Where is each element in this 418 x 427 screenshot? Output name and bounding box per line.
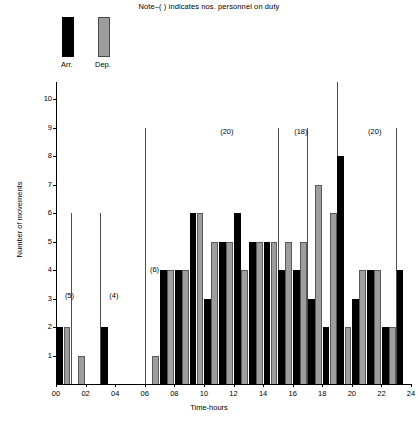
shift-personnel-label: (5) — [65, 291, 74, 300]
legend-swatch-departures — [98, 17, 110, 57]
bar-arrivals — [367, 270, 374, 384]
x-tick-mark — [381, 384, 382, 387]
y-tick-label: 6 — [26, 208, 52, 217]
shift-divider-line — [145, 128, 146, 384]
bar-arrivals — [397, 270, 404, 384]
bar-arrivals — [204, 299, 211, 384]
bar-departures — [226, 242, 233, 384]
bar-departures — [256, 242, 263, 384]
bar-departures — [285, 242, 292, 384]
y-tick-label: 2 — [26, 322, 52, 331]
bar-arrivals — [382, 327, 389, 384]
shift-personnel-label: (20) — [368, 127, 381, 136]
legend-swatch-arrivals — [62, 17, 74, 57]
y-tick-label: 5 — [26, 237, 52, 246]
x-tick-label: 14 — [253, 389, 273, 398]
bar-departures — [300, 242, 307, 384]
shift-personnel-label: (20) — [220, 127, 233, 136]
bar-departures — [374, 270, 381, 384]
bar-departures — [167, 270, 174, 384]
shift-personnel-label: (6) — [150, 265, 159, 274]
x-tick-label: 22 — [371, 389, 391, 398]
x-tick-mark — [263, 384, 264, 387]
x-tick-mark — [174, 384, 175, 387]
x-tick-label: 16 — [283, 389, 303, 398]
x-tick-mark — [56, 384, 57, 387]
bar-arrivals — [323, 327, 330, 384]
x-tick-mark — [293, 384, 294, 387]
bar-arrivals — [352, 299, 359, 384]
x-tick-mark — [204, 384, 205, 387]
bar-departures — [78, 356, 85, 384]
x-tick-mark — [411, 384, 412, 387]
x-tick-label: 08 — [164, 389, 184, 398]
x-tick-label: 06 — [135, 389, 155, 398]
bar-departures — [330, 213, 337, 384]
bar-arrivals — [337, 156, 344, 384]
bar-departures — [182, 270, 189, 384]
bar-departures — [359, 270, 366, 384]
x-tick-label: 12 — [224, 389, 244, 398]
bar-departures — [197, 213, 204, 384]
bar-arrivals — [101, 327, 108, 384]
x-tick-mark — [322, 384, 323, 387]
bar-chart: Note–( ) indicates nos. personnel on dut… — [0, 0, 418, 427]
x-axis-label: Time-hours — [0, 403, 418, 412]
shift-personnel-label: (18) — [294, 127, 307, 136]
bar-arrivals — [160, 270, 167, 384]
y-axis-label: Number of movements — [15, 172, 24, 268]
y-tick-label: 1 — [26, 351, 52, 360]
x-tick-mark — [115, 384, 116, 387]
x-tick-label: 18 — [312, 389, 332, 398]
bar-departures — [64, 327, 71, 384]
x-tick-label: 02 — [76, 389, 96, 398]
bar-arrivals — [175, 270, 182, 384]
y-tick-label: 4 — [26, 265, 52, 274]
bar-arrivals — [308, 299, 315, 384]
x-tick-label: 20 — [342, 389, 362, 398]
x-tick-label: 24 — [401, 389, 418, 398]
y-tick-label: 10 — [26, 94, 52, 103]
chart-note: Note–( ) indicates nos. personnel on dut… — [0, 2, 418, 11]
bar-arrivals — [234, 213, 241, 384]
bar-arrivals — [249, 242, 256, 384]
y-tick-label: 7 — [26, 180, 52, 189]
bar-arrivals — [264, 242, 271, 384]
bar-departures — [389, 327, 396, 384]
bar-arrivals — [56, 327, 63, 384]
x-tick-label: 00 — [46, 389, 66, 398]
x-tick-mark — [234, 384, 235, 387]
bar-arrivals — [190, 213, 197, 384]
y-tick-label: 8 — [26, 151, 52, 160]
bar-departures — [241, 270, 248, 384]
x-tick-mark — [145, 384, 146, 387]
y-tick-label: 3 — [26, 294, 52, 303]
bar-arrivals — [293, 270, 300, 384]
bar-arrivals — [219, 242, 226, 384]
legend-label-departures: Dep. — [95, 60, 111, 69]
x-tick-mark — [86, 384, 87, 387]
x-tick-label: 04 — [105, 389, 125, 398]
bar-departures — [315, 185, 322, 384]
shift-personnel-label: (4) — [109, 291, 118, 300]
bar-arrivals — [278, 270, 285, 384]
y-tick-label: 9 — [26, 123, 52, 132]
x-tick-mark — [352, 384, 353, 387]
bar-departures — [152, 356, 159, 384]
bar-departures — [271, 242, 278, 384]
bar-departures — [345, 327, 352, 384]
bar-departures — [211, 242, 218, 384]
legend-label-arrivals: Arr. — [61, 60, 73, 69]
x-tick-label: 10 — [194, 389, 214, 398]
